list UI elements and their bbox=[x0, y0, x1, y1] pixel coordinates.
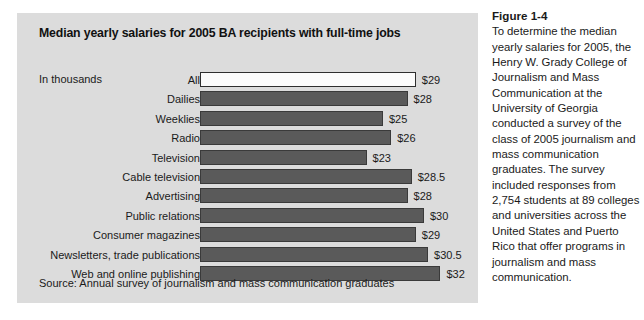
bar-category-label: All bbox=[188, 73, 200, 87]
bar-value-label: $28 bbox=[414, 189, 432, 203]
bar-category-label: Advertising bbox=[146, 189, 200, 203]
figure-caption-heading: Figure 1-4 bbox=[492, 8, 644, 23]
figure-caption: Figure 1-4 To determine the median yearl… bbox=[492, 8, 644, 285]
bar-category-label: Dailies bbox=[167, 92, 200, 106]
bar-category-label: Newsletters, trade publications bbox=[50, 248, 200, 262]
bar-value-label: $29 bbox=[422, 73, 440, 87]
bar-row: Public relations$30 bbox=[17, 207, 478, 225]
chart-title: Median yearly salaries for 2005 BA recip… bbox=[39, 26, 449, 42]
bar-radio bbox=[200, 130, 391, 145]
bar-cable-television bbox=[200, 169, 412, 184]
bar-public-relations bbox=[200, 208, 424, 223]
bar-value-label: $26 bbox=[397, 131, 415, 145]
bar-row: Consumer magazines$29 bbox=[17, 226, 478, 244]
bar-value-label: $28 bbox=[414, 92, 432, 106]
bar-newsletters-trade-publications bbox=[200, 247, 428, 262]
bar-row: Cable television$28.5 bbox=[17, 168, 478, 186]
bar-value-label: $32 bbox=[446, 267, 464, 281]
bar-advertising bbox=[200, 188, 408, 203]
bar-row: Television$23 bbox=[17, 149, 478, 167]
bar-category-label: Radio bbox=[171, 131, 200, 145]
bar-value-label: $28.5 bbox=[418, 170, 446, 184]
bar-row: Dailies$28 bbox=[17, 90, 478, 108]
chart-panel: Median yearly salaries for 2005 BA recip… bbox=[17, 13, 478, 303]
bar-value-label: $25 bbox=[389, 112, 407, 126]
bar-dailies bbox=[200, 91, 408, 106]
bar-television bbox=[200, 150, 367, 165]
bar-row: Advertising$28 bbox=[17, 187, 478, 205]
bar-all bbox=[200, 72, 416, 87]
bar-consumer-magazines bbox=[200, 227, 416, 242]
bar-value-label: $29 bbox=[422, 228, 440, 242]
bar-chart-plot-area: All$29Dailies$28Weeklies$25Radio$26Telev… bbox=[17, 71, 478, 281]
bar-row: Weeklies$25 bbox=[17, 110, 478, 128]
bar-category-label: Consumer magazines bbox=[93, 228, 200, 242]
bar-weeklies bbox=[200, 111, 383, 126]
figure-caption-body: To determine the median yearly salaries … bbox=[492, 24, 644, 285]
bar-value-label: $30 bbox=[430, 209, 448, 223]
bar-value-label: $23 bbox=[373, 151, 391, 165]
bar-category-label: Public relations bbox=[125, 209, 200, 223]
bar-category-label: Cable television bbox=[122, 170, 200, 184]
bar-category-label: Television bbox=[152, 151, 200, 165]
bar-category-label: Weeklies bbox=[156, 112, 200, 126]
bar-row: Newsletters, trade publications$30.5 bbox=[17, 246, 478, 264]
chart-source-note: Source: Annual survey of journalism and … bbox=[39, 277, 394, 289]
bar-value-label: $30.5 bbox=[434, 248, 462, 262]
bar-row: Radio$26 bbox=[17, 129, 478, 147]
bar-row: All$29 bbox=[17, 71, 478, 89]
